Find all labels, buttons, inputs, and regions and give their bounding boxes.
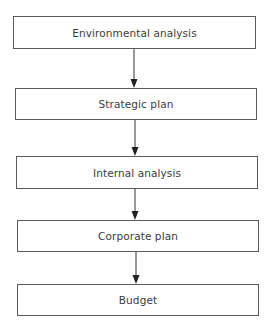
node-label: Environmental analysis xyxy=(72,27,196,39)
arrow-internal-to-corporate xyxy=(132,188,139,220)
node-environmental-analysis: Environmental analysis xyxy=(13,16,256,49)
node-label: Corporate plan xyxy=(98,230,178,242)
arrow-corporate-to-budget xyxy=(133,251,140,284)
arrow-strategic-to-internal xyxy=(132,119,139,156)
node-label: Budget xyxy=(119,294,157,306)
flowchart-diagram: Environmental analysis Strategic plan In… xyxy=(0,0,270,333)
node-label: Internal analysis xyxy=(93,167,181,179)
node-internal-analysis: Internal analysis xyxy=(16,156,258,189)
node-budget: Budget xyxy=(17,284,259,316)
node-label: Strategic plan xyxy=(99,98,174,110)
arrow-environmental-to-strategic xyxy=(131,48,138,88)
node-corporate-plan: Corporate plan xyxy=(17,220,259,252)
node-strategic-plan: Strategic plan xyxy=(15,88,257,120)
